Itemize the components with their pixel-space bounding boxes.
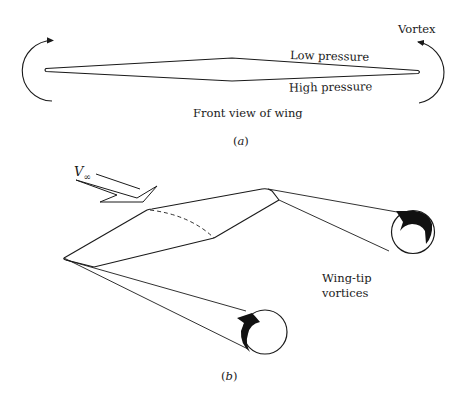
right-vortex-swirl-icon [396, 211, 432, 244]
wing-vortex-diagram [0, 0, 463, 395]
right-wingtip-vortex [268, 189, 435, 254]
freestream-velocity-label: V∞ [74, 164, 91, 179]
low-pressure-label: Low pressure [290, 48, 370, 64]
vortex-label: Vortex [398, 22, 436, 36]
figure-b-caption: (b) [221, 369, 237, 383]
front-view-title: Front view of wing [193, 106, 303, 120]
wingtip-vortices-label-line1: Wing-tip [322, 271, 372, 285]
figure-a-caption: (a) [233, 134, 249, 148]
wing-planform [64, 189, 279, 267]
left-wingtip-vortex [64, 258, 287, 354]
wingtip-vortices-label-line2: vortices [322, 286, 368, 300]
freestream-subscript: ∞ [83, 172, 91, 182]
freestream-symbol: V [74, 164, 83, 179]
right-vortex-arrow-icon [418, 42, 444, 103]
high-pressure-label: High pressure [289, 79, 373, 94]
left-vortex-arrow-icon [22, 40, 53, 101]
